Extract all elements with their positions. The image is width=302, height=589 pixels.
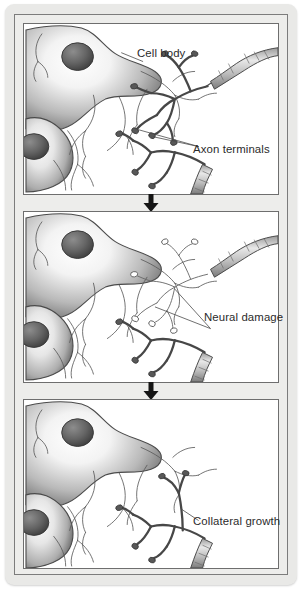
- down-arrow-icon: [143, 382, 159, 400]
- axon-upper: [205, 48, 278, 90]
- label-neural-damage: Neural damage: [204, 312, 283, 323]
- nucleus-upper: [62, 419, 94, 447]
- nucleus-lower: [24, 322, 49, 348]
- axon-terminal-arbor-lower: [121, 322, 204, 372]
- panel-neural-damage: [23, 211, 279, 383]
- axon-lower: [191, 352, 213, 382]
- label-cell-body: Cell body: [137, 48, 185, 59]
- nucleus-upper: [62, 231, 94, 259]
- label-collateral-growth: Collateral growth: [193, 516, 280, 527]
- panel-3-illustration: [24, 400, 278, 568]
- figure-frame: Cell body Axon terminals Neural damage C…: [14, 14, 288, 575]
- terminal-boutons-lower: [115, 318, 156, 378]
- nucleus-lower: [24, 510, 49, 536]
- label-axon-terminals: Axon terminals: [193, 144, 270, 155]
- axon-lower: [191, 164, 213, 194]
- terminal-boutons-lower: [115, 130, 156, 190]
- leader-lines-axon-terminals: [135, 129, 199, 147]
- down-arrow-icon: [143, 194, 159, 212]
- step-arrow-2-to-3: [15, 382, 287, 400]
- axon-lower: [191, 538, 213, 568]
- figure-card: Cell body Axon terminals Neural damage C…: [5, 4, 297, 585]
- panel-2-illustration: [24, 212, 278, 382]
- axon-upper: [211, 236, 278, 278]
- collateral-sprout: [163, 475, 185, 530]
- collateral-sprout-boutons: [158, 470, 190, 480]
- axon-terminal-arbor-lower: [121, 134, 204, 184]
- step-arrow-1-to-2: [15, 194, 287, 212]
- panel-collateral-growth: [23, 399, 279, 569]
- nucleus-lower: [24, 134, 49, 160]
- nucleus-upper: [62, 43, 94, 71]
